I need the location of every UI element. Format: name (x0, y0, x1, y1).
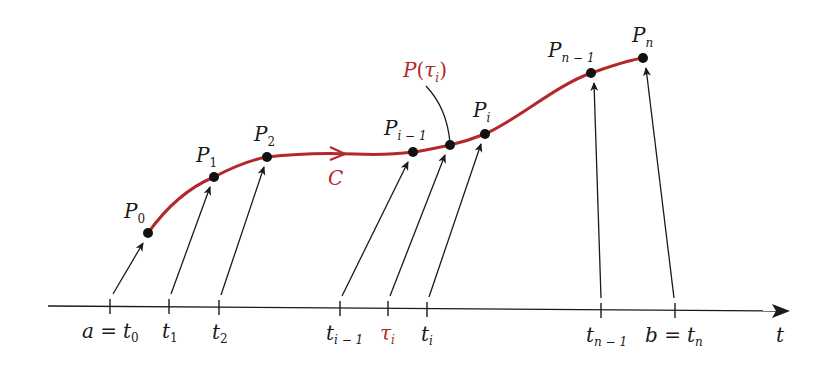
point-labels: P0 P1 P2 Pi − 1 Pi Pn − 1 Pn (123, 23, 653, 226)
arrow-t1-to-P1 (171, 187, 210, 294)
label-b-equals-tn: b =tn (645, 323, 703, 349)
t-axis (48, 304, 790, 318)
point-Pn (638, 53, 648, 63)
point-P2 (262, 152, 272, 162)
label-P-tau-i: P(τi) (402, 58, 447, 85)
label-ti: ti (421, 322, 433, 348)
arrow-tn-1-to-Pn-1 (594, 83, 601, 298)
curve-partition-diagram: P0 P1 P2 Pi − 1 Pi Pn − 1 Pn P(τi) C a =… (0, 0, 829, 370)
point-P1 (209, 172, 219, 182)
arrow-tn-to-Pn (646, 68, 674, 298)
ptau-leader-line (426, 86, 450, 143)
label-tau-i: τi (380, 321, 395, 347)
axis-tick-labels: a =t0 t1 t2 ti − 1 τi ti tn − 1 b =tn t (82, 319, 785, 349)
arrow-t2-to-P2 (221, 167, 264, 295)
label-P0: P0 (123, 199, 145, 226)
point-Ptau (445, 140, 455, 150)
label-Pn: Pn (631, 23, 653, 50)
label-Pi-1: Pi − 1 (383, 116, 427, 143)
label-a-equals-t0: a =t0 (82, 319, 139, 345)
label-t2: t2 (212, 320, 228, 346)
arrow-ti-to-Pi (429, 144, 481, 297)
point-Pi-1 (408, 147, 418, 157)
label-P2: P2 (253, 122, 275, 149)
label-t1: t1 (162, 319, 178, 345)
mapping-arrows (113, 68, 674, 298)
label-P1: P1 (195, 143, 217, 170)
label-ti-1: ti − 1 (326, 321, 363, 347)
point-P0 (143, 228, 153, 238)
point-Pn-1 (586, 68, 596, 78)
label-tn-1: tn − 1 (586, 323, 627, 349)
label-Pn-1: Pn − 1 (547, 38, 595, 65)
point-Pi (480, 129, 490, 139)
arrow-t0-to-P0 (113, 243, 143, 294)
label-axis-t: t (776, 323, 785, 347)
label-curve-C: C (328, 166, 343, 190)
curve-C (148, 58, 643, 233)
label-Pi: Pi (472, 98, 490, 125)
